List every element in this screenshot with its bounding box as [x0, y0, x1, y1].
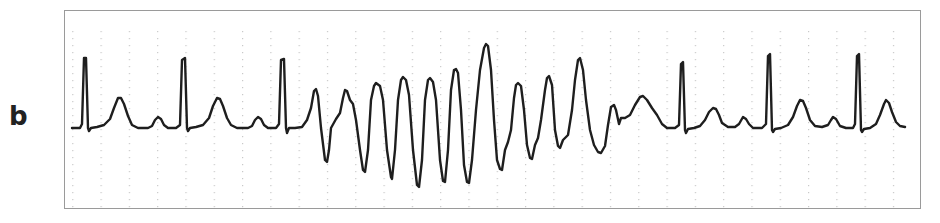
ecg-chart [0, 0, 940, 223]
